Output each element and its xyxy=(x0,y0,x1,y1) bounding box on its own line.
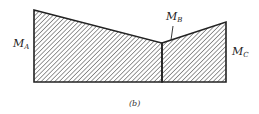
left-span-region xyxy=(34,10,162,82)
mb-leader-line xyxy=(171,26,173,40)
label-mb: MB xyxy=(166,11,182,24)
moment-diagram-figure: MA MB MC (b) xyxy=(0,0,259,114)
moment-diagram-graphic xyxy=(0,0,259,114)
label-mc: MC xyxy=(232,46,249,59)
right-span-region xyxy=(162,22,226,82)
label-ma: MA xyxy=(13,38,29,51)
figure-caption: (b) xyxy=(129,99,140,108)
